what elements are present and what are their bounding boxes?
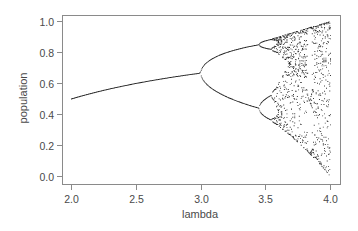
x-axis: 2.02.53.03.54.0 bbox=[64, 185, 338, 205]
x-tick-label: 4.0 bbox=[323, 193, 338, 205]
x-tick-label: 3.0 bbox=[194, 193, 209, 205]
y-tick-label: 0.2 bbox=[39, 140, 54, 152]
y-axis-title: population bbox=[17, 73, 29, 124]
y-tick-label: 0.6 bbox=[39, 78, 54, 90]
plot-area bbox=[63, 16, 341, 185]
y-axis: 0.00.20.40.60.81.0 bbox=[39, 16, 62, 183]
bifurcation-chart: 2.02.53.03.54.0 0.00.20.40.60.81.0 lambd… bbox=[0, 0, 358, 231]
y-tick-label: 0.0 bbox=[39, 171, 54, 183]
x-axis-title: lambda bbox=[182, 208, 219, 220]
y-tick-label: 0.4 bbox=[39, 109, 54, 121]
y-tick-label: 0.8 bbox=[39, 47, 54, 59]
x-tick-label: 2.0 bbox=[64, 193, 79, 205]
data-points bbox=[71, 21, 331, 175]
scatter-points bbox=[71, 21, 331, 175]
y-tick-label: 1.0 bbox=[39, 16, 54, 28]
x-tick-label: 3.5 bbox=[258, 193, 273, 205]
x-tick-label: 2.5 bbox=[129, 193, 144, 205]
